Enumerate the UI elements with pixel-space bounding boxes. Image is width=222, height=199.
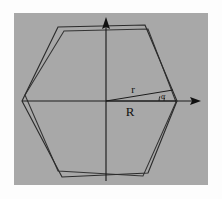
- figure-container: r R α: [0, 0, 222, 199]
- circumradius-label: R: [126, 104, 135, 119]
- hexagon-geometry-diagram: r R α: [0, 0, 222, 199]
- inradius-label: r: [131, 83, 135, 95]
- diagram-panel-background: [14, 13, 208, 185]
